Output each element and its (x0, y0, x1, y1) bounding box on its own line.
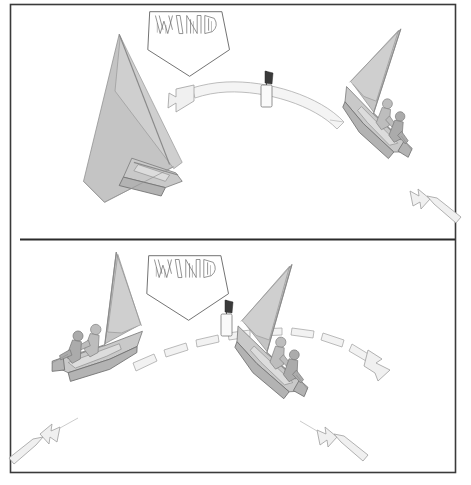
motion-arrow-bottom-left (9, 424, 60, 464)
motion-arrow-bottom-right (317, 427, 368, 461)
track-arc-top (168, 82, 344, 129)
panel-bottom (9, 244, 390, 464)
mark-buoy-top (261, 71, 273, 107)
figure-border (11, 5, 456, 473)
mark-buoy-bottom (221, 300, 233, 336)
wake-line-bottom-right (300, 421, 317, 431)
boat-top-right (333, 20, 438, 163)
panel-top (84, 12, 462, 223)
wake-line-bottom-left (60, 418, 78, 428)
wind-indicator-top (148, 12, 230, 77)
track-arrowhead-top (168, 85, 194, 112)
motion-arrow-top-right (410, 189, 461, 223)
boat-bottom-left (49, 244, 157, 394)
track-arrowhead-bottom (364, 350, 390, 381)
figure-canvas: Sailing manoeuvre diagram Two-panel line… (0, 0, 471, 485)
wind-indicator-bottom (147, 256, 229, 321)
